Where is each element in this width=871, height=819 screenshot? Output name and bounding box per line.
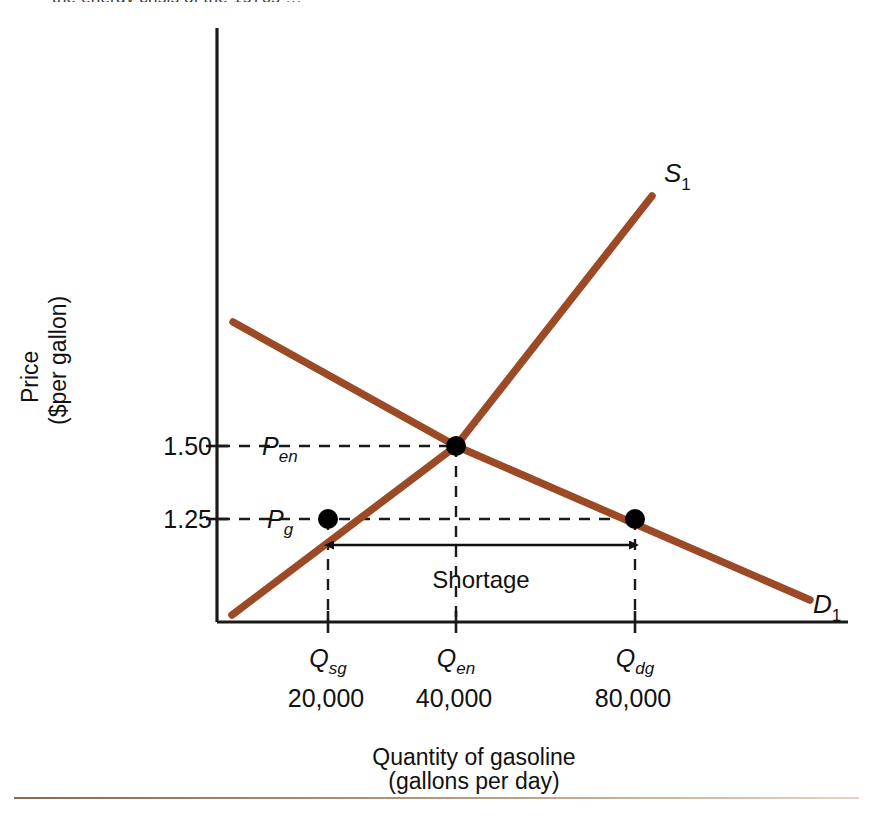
x-tick-value-q-sg: 20,000 (288, 684, 364, 712)
curves-group (232, 196, 810, 615)
curve-labels-group: S1 D1 (664, 158, 841, 625)
footer-divider-rule (14, 797, 859, 799)
y-symbol-p-en-subscript: en (279, 447, 298, 466)
x-axis-title-line1: Quantity of gasoline (372, 744, 575, 770)
supply-demand-chart: Shortage 1.50 Pen 1.25 Pg Qsg 20,000 Qen… (0, 0, 871, 819)
curve-label-s1-subscript: 1 (681, 175, 690, 194)
x-axis-title-line2: (gallons per day) (388, 768, 559, 794)
x-tick-symbol-q-sg: Qsg (309, 644, 347, 678)
y-symbol-p-g-base: P (267, 505, 284, 533)
curve-label-d1-base: D (813, 589, 832, 619)
point-quantity-demanded[interactable] (625, 509, 645, 529)
x-symbol-q-dg-base: Q (616, 644, 635, 672)
x-tick-symbol-q-dg: Qdg (616, 644, 655, 678)
x-tick-labels-group: Qsg 20,000 Qen 40,000 Qdg 80,000 (288, 644, 671, 712)
y-axis-title-line1: Price (17, 351, 43, 403)
supply-curve-s1[interactable] (232, 196, 652, 615)
y-tick-symbol-p-en: Pen (262, 432, 298, 466)
x-symbol-q-sg-base: Q (309, 644, 328, 672)
figure-root: the energy crisis of the 1970s … (0, 0, 871, 819)
x-tick-symbol-q-en: Qen (437, 644, 475, 678)
shortage-annotation-group: Shortage (334, 545, 629, 593)
axes-group (217, 28, 848, 622)
curve-label-s1-base: S (664, 158, 682, 188)
y-axis-title-group: Price ($per gallon) (17, 296, 71, 425)
x-symbol-q-dg-subscript: dg (635, 659, 654, 678)
x-axis-title-group: Quantity of gasoline (gallons per day) (372, 744, 575, 794)
x-symbol-q-en-subscript: en (456, 659, 475, 678)
shortage-label: Shortage (432, 566, 529, 593)
y-tick-labels-group: 1.50 Pen 1.25 Pg (163, 432, 297, 539)
x-tick-value-q-dg: 80,000 (595, 684, 671, 712)
x-tick-value-q-en: 40,000 (416, 684, 492, 712)
x-symbol-q-sg-subscript: sg (329, 659, 348, 678)
x-symbol-q-en-base: Q (437, 644, 456, 672)
point-equilibrium[interactable] (446, 436, 466, 456)
curve-label-d1-subscript: 1 (832, 606, 841, 625)
curve-label-d1: D1 (813, 589, 841, 625)
curve-label-s1: S1 (664, 158, 691, 194)
y-symbol-p-en-base: P (262, 432, 279, 460)
y-tick-symbol-p-g: Pg (267, 505, 294, 539)
y-tick-label-125: 1.25 (163, 505, 212, 533)
point-quantity-supplied[interactable] (318, 509, 338, 529)
y-symbol-p-g-subscript: g (284, 520, 294, 539)
y-axis-title-line2: ($per gallon) (45, 296, 71, 425)
y-tick-label-150: 1.50 (163, 432, 212, 460)
